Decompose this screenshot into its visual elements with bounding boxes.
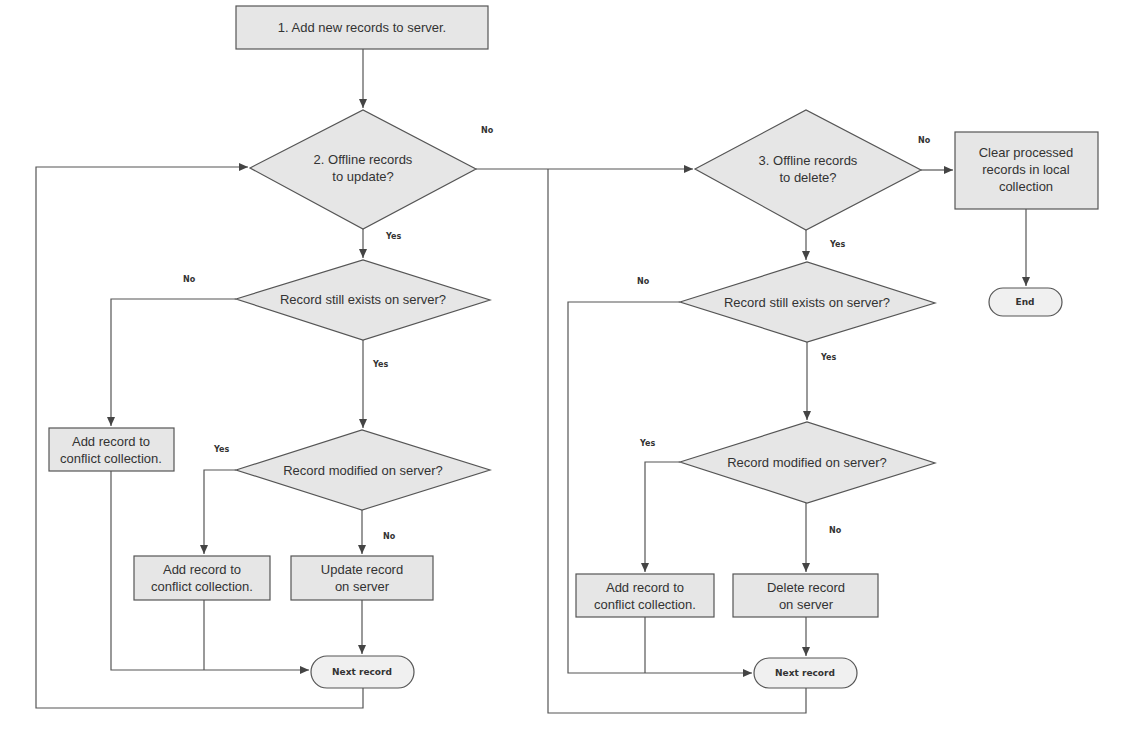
label-upd-modified-yes: Yes — [213, 445, 229, 454]
node-label: Record still exists on server? — [280, 292, 446, 307]
edge-upd-modified-yes — [204, 470, 236, 554]
label-delete-no: No — [918, 136, 931, 145]
label-upd-modified-no: No — [383, 532, 396, 541]
node-label-line2: on server — [335, 579, 390, 594]
node-end: End — [989, 288, 1062, 316]
node-delete-conflict: Add record to conflict collection. — [576, 574, 714, 617]
label-del-modified-yes: Yes — [639, 439, 655, 448]
node-delete-next-record: Next record — [754, 658, 857, 688]
label-upd-exists-yes: Yes — [372, 360, 388, 369]
node-label: 1. Add new records to server. — [278, 20, 446, 35]
node-label: Record modified on server? — [727, 455, 887, 470]
node-label: Record still exists on server? — [724, 295, 890, 310]
node-update-exists-decision: Record still exists on server? — [236, 260, 490, 340]
node-label-line3: collection — [999, 179, 1053, 194]
node-add-new-records: 1. Add new records to server. — [236, 6, 488, 49]
node-delete-record: Delete record on server — [733, 574, 878, 617]
node-update-next-record: Next record — [311, 656, 414, 688]
node-update-modified-decision: Record modified on server? — [236, 430, 490, 510]
node-label-line2: records in local — [982, 162, 1070, 177]
label-delete-yes: Yes — [829, 240, 845, 249]
node-offline-delete-decision: 3. Offline records to delete? — [695, 110, 921, 230]
node-offline-update-decision: 2. Offline records to update? — [250, 110, 476, 229]
node-label-line1: Add record to — [163, 562, 241, 577]
node-label-line1: Update record — [321, 562, 403, 577]
node-label-line2: on server — [779, 597, 834, 612]
node-label-line1: Clear processed — [979, 145, 1074, 160]
edge-del-modified-yes — [645, 462, 680, 572]
node-label-line2: conflict collection. — [594, 597, 696, 612]
node-label-line1: Add record to — [606, 580, 684, 595]
node-delete-modified-decision: Record modified on server? — [680, 422, 935, 503]
node-label-line1: Delete record — [767, 580, 845, 595]
node-label-line2: to delete? — [779, 170, 836, 185]
flowchart-canvas: 1. Add new records to server. 2. Offline… — [0, 0, 1131, 749]
node-label: Record modified on server? — [283, 463, 443, 478]
node-label: Next record — [775, 668, 835, 678]
label-update-no: No — [481, 126, 494, 135]
node-update-conflict-b: Add record to conflict collection. — [134, 556, 270, 600]
node-delete-exists-decision: Record still exists on server? — [680, 262, 935, 342]
label-del-exists-no: No — [637, 277, 650, 286]
node-label-line2: conflict collection. — [151, 579, 253, 594]
node-label-line1: Add record to — [72, 434, 150, 449]
node-label: End — [1016, 297, 1035, 307]
node-label: Next record — [332, 667, 392, 677]
label-update-yes: Yes — [385, 232, 401, 241]
node-clear-processed: Clear processed records in local collect… — [955, 132, 1098, 209]
node-label-line1: 3. Offline records — [759, 153, 858, 168]
node-label-line2: conflict collection. — [60, 451, 162, 466]
node-update-record: Update record on server — [291, 556, 433, 600]
node-label-line1: 2. Offline records — [314, 152, 413, 167]
node-update-conflict-a: Add record to conflict collection. — [49, 428, 174, 471]
label-del-exists-yes: Yes — [820, 353, 836, 362]
edge-upd-exists-no — [111, 299, 236, 426]
label-del-modified-no: No — [829, 526, 842, 535]
label-upd-exists-no: No — [183, 275, 196, 284]
node-label-line2: to update? — [332, 169, 393, 184]
